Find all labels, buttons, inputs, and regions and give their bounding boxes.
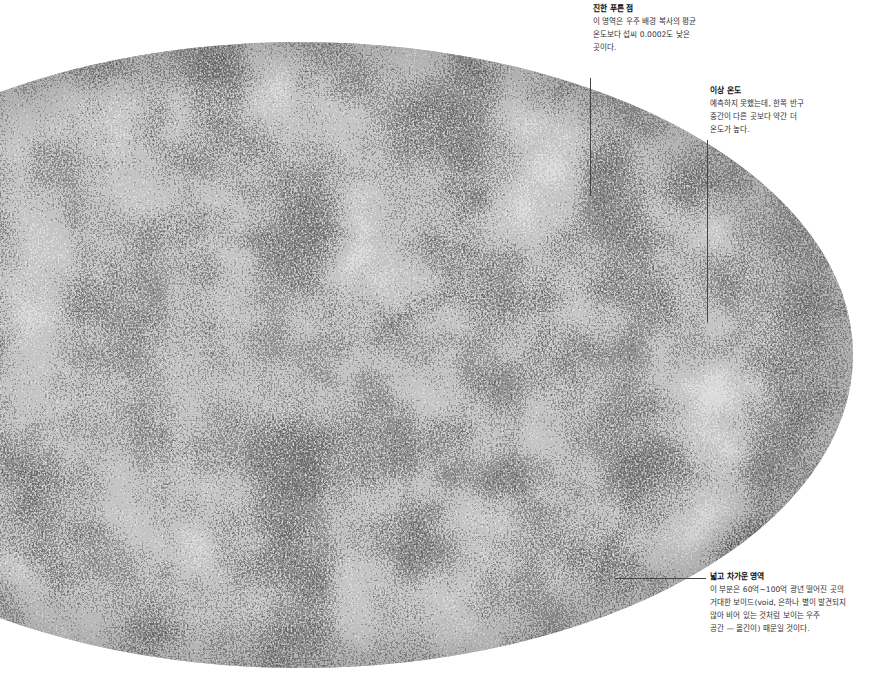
annotation-line: 온도가 높다. [710, 123, 804, 136]
annotation-line: 이 영역은 우주 배경 복사의 평균 [593, 15, 696, 28]
annotation-anomalous-temperature: 이상 온도 예측하지 못했는데, 한쪽 반구 중간이 다른 곳보다 약간 더 온… [710, 84, 804, 136]
annotation-line: 이 부분은 60억~100억 광년 떨어진 곳의 [710, 583, 846, 596]
annotation-line: 거대한 보이드(void, 은하나 별이 발견되지 [710, 596, 846, 609]
annotation-line: 공간 — 옮긴이) 때문일 것이다. [710, 622, 846, 635]
annotation-title: 진한 푸른 점 [593, 2, 696, 15]
annotation-line: 곳이다. [593, 41, 696, 54]
annotation-line: 중간이 다른 곳보다 약간 더 [710, 110, 804, 123]
leader-line-anomalous-temperature [707, 140, 708, 322]
annotation-line: 않아 비어 있는 것처럼 보이는 우주 [710, 609, 846, 622]
leader-line-wide-cold-region [615, 578, 706, 579]
annotation-dark-blue-spot: 진한 푸른 점 이 영역은 우주 배경 복사의 평균 온도보다 섭씨 0.000… [593, 2, 696, 54]
annotation-wide-cold-region: 넓고 차가운 영역 이 부분은 60억~100억 광년 떨어진 곳의 거대한 보… [710, 570, 846, 635]
annotation-title: 이상 온도 [710, 84, 804, 97]
annotation-line: 온도보다 섭씨 0.0002도 낮은 [593, 28, 696, 41]
annotation-line: 예측하지 못했는데, 한쪽 반구 [710, 97, 804, 110]
leader-line-dark-blue-spot [590, 78, 591, 196]
annotation-title: 넓고 차가운 영역 [710, 570, 846, 583]
